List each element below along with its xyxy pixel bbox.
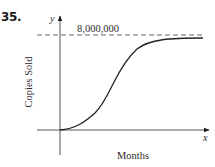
x-axis-label: Months <box>117 150 149 161</box>
logistic-growth-chart: 8,000,000 y x Months Copies Sold <box>0 0 215 167</box>
y-axis-label: Copies Sold <box>23 56 34 108</box>
y-axis-symbol: y <box>49 13 55 24</box>
logistic-curve <box>60 38 203 130</box>
asymptote-label: 8,000,000 <box>77 23 119 34</box>
x-axis-symbol: x <box>202 132 208 143</box>
